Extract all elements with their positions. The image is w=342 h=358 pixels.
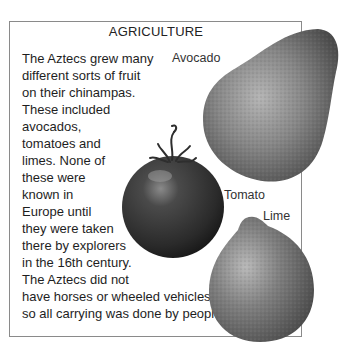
avocado-label: Avocado [172,51,220,65]
lime-label: Lime [263,209,290,223]
lime-illustration [209,217,314,342]
tomato-label: Tomato [224,188,265,202]
tomato-illustration [122,125,224,258]
avocado-illustration [203,29,338,182]
tomato-stem-icon [150,125,196,162]
fruit-illustrations [0,0,342,358]
